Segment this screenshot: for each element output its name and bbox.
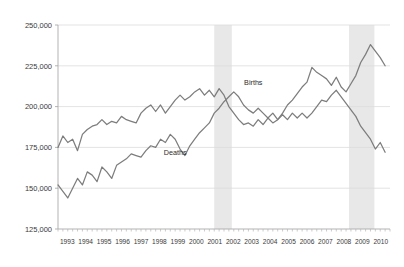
births-deaths-line-chart: 125,000150,000175,000200,000225,000250,0… [0, 0, 404, 267]
annotation-births: Births [244, 78, 263, 87]
recession-shaded-bands [214, 25, 374, 229]
chart-container: 125,000150,000175,000200,000225,000250,0… [0, 0, 404, 267]
y-tick-label: 175,000 [25, 143, 52, 152]
y-tick-label: 200,000 [25, 102, 52, 111]
x-tick-label: 1999 [171, 238, 186, 245]
x-axis: 1993199419951996199719981999200020012002… [58, 229, 390, 245]
x-tick-label: 2002 [226, 238, 241, 245]
x-tick-label: 2003 [244, 238, 259, 245]
x-tick-label: 2000 [189, 238, 204, 245]
y-axis: 125,000150,000175,000200,000225,000250,0… [25, 21, 58, 234]
x-tick-label: 2005 [281, 238, 296, 245]
x-tick-label: 1998 [152, 238, 167, 245]
x-tick-label: 1995 [97, 238, 112, 245]
shaded-band [214, 25, 232, 229]
x-tick-label: 1996 [115, 238, 130, 245]
y-tick-label: 150,000 [25, 184, 52, 193]
x-tick-label: 2004 [263, 238, 278, 245]
x-tick-label: 2007 [318, 238, 333, 245]
x-tick-label: 2001 [207, 238, 222, 245]
annotation-deaths: Deaths [164, 148, 187, 157]
x-tick-label: 1994 [78, 238, 93, 245]
x-tick-label: 2008 [337, 238, 352, 245]
x-tick-label: 2010 [373, 238, 388, 245]
x-tick-label: 2009 [355, 238, 370, 245]
y-tick-label: 225,000 [25, 62, 52, 71]
x-tick-label: 1993 [60, 238, 75, 245]
x-tick-label: 2006 [300, 238, 315, 245]
y-tick-label: 250,000 [25, 21, 52, 30]
x-tick-label: 1997 [134, 238, 149, 245]
y-tick-label: 125,000 [25, 225, 52, 234]
